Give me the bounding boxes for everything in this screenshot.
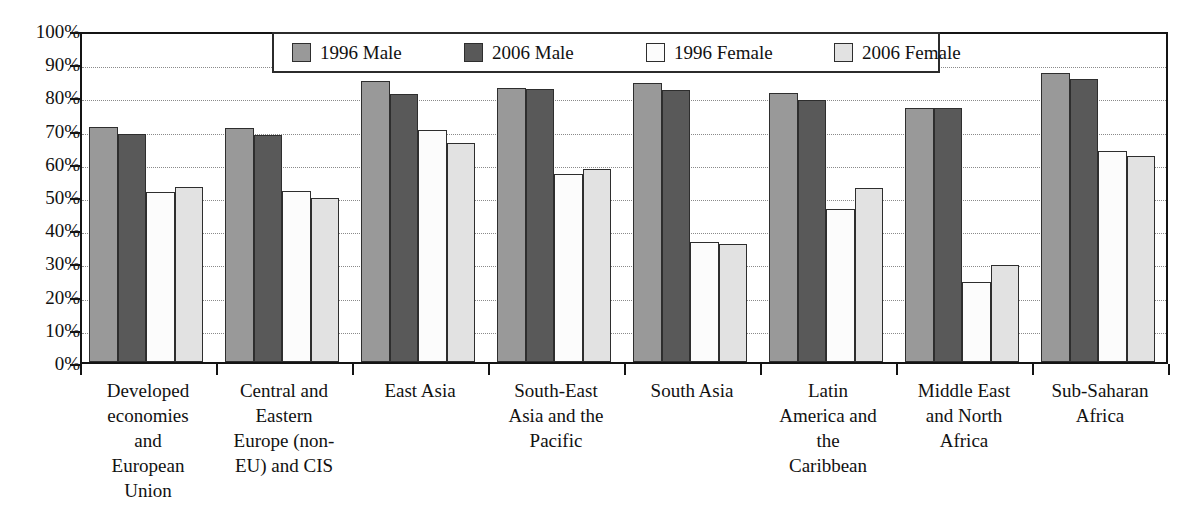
x-axis-category-label-line: Eastern <box>216 403 352 428</box>
y-axis-tick-mark <box>70 132 80 134</box>
y-axis: 100%90%80%70%60%50%40%30%20%10%0% <box>0 0 80 400</box>
bar <box>361 81 390 362</box>
bar <box>89 127 118 362</box>
plot-area <box>80 32 1168 364</box>
bar-group <box>361 34 475 362</box>
legend-item[interactable]: 1996 Female <box>646 34 773 71</box>
bar <box>934 108 963 362</box>
bar <box>311 198 340 362</box>
x-axis-tick-mark <box>1032 364 1034 375</box>
y-axis-tick-mark <box>70 331 80 333</box>
bar-group <box>769 34 883 362</box>
legend-item[interactable]: 2006 Female <box>834 34 961 71</box>
bar <box>254 135 283 362</box>
x-axis-category-label-line: and <box>80 428 216 453</box>
bar-group <box>225 34 339 362</box>
x-axis-category-label-line: Pacific <box>488 428 624 453</box>
x-axis-category-label: LatinAmerica andtheCaribbean <box>760 378 896 478</box>
x-axis-category-label-line: Developed <box>80 378 216 403</box>
x-axis-category-label-line: the <box>760 428 896 453</box>
x-axis-category-label-line: European <box>80 453 216 478</box>
bar <box>719 244 748 362</box>
bar <box>991 265 1020 362</box>
bar <box>662 90 691 362</box>
x-axis-category-label-line: Sub-Saharan <box>1032 378 1168 403</box>
x-axis-category-label-line: Central and <box>216 378 352 403</box>
chart-legend: 1996 Male2006 Male1996 Female2006 Female <box>272 32 940 73</box>
x-axis-category-label: South Asia <box>624 378 760 403</box>
bar <box>1070 79 1099 362</box>
bar <box>175 187 204 362</box>
x-axis-category-label-line: and North <box>896 403 1032 428</box>
y-axis-tick-mark <box>70 264 80 266</box>
bar <box>390 94 419 362</box>
bar <box>826 209 855 362</box>
bar <box>418 130 447 362</box>
x-axis-category-label-line: economies <box>80 403 216 428</box>
legend-item-label: 2006 Female <box>862 43 961 62</box>
legend-item-label: 1996 Male <box>320 43 402 62</box>
bar <box>146 192 175 362</box>
x-axis-tick-mark <box>352 364 354 375</box>
legend-swatch-1996-male <box>292 43 311 62</box>
x-axis-tick-mark <box>1168 364 1170 375</box>
y-axis-tick-mark <box>70 298 80 300</box>
bar <box>526 89 555 362</box>
bar <box>1098 151 1127 362</box>
x-axis-category-label-line: Middle East <box>896 378 1032 403</box>
y-axis-tick-mark <box>70 231 80 233</box>
x-axis-category-label-line: Africa <box>896 428 1032 453</box>
bar <box>1127 156 1156 363</box>
bar <box>497 88 526 362</box>
bar <box>583 169 612 362</box>
y-axis-tick-mark <box>70 198 80 200</box>
bar <box>225 128 254 362</box>
legend-swatch-2006-female <box>834 43 853 62</box>
x-axis-category-label-line: South Asia <box>624 378 760 403</box>
bar <box>769 93 798 362</box>
legend-swatch-2006-male <box>464 43 483 62</box>
legend-item-label: 1996 Female <box>674 43 773 62</box>
bar-group <box>89 34 203 362</box>
x-axis-category-label-line: South-East <box>488 378 624 403</box>
bar <box>118 134 147 362</box>
bar <box>798 100 827 362</box>
bar <box>690 242 719 362</box>
x-axis-category-label-line: America and <box>760 403 896 428</box>
x-axis-tick-mark <box>488 364 490 375</box>
legend-item-label: 2006 Male <box>492 43 574 62</box>
legend-item[interactable]: 1996 Male <box>292 34 402 71</box>
legend-item[interactable]: 2006 Male <box>464 34 574 71</box>
y-axis-tick-mark <box>70 364 80 366</box>
y-axis-tick-mark <box>70 65 80 67</box>
x-axis-category-label-line: Caribbean <box>760 453 896 478</box>
bar <box>633 83 662 362</box>
bar-group <box>1041 34 1155 362</box>
x-axis-tick-mark <box>80 364 82 375</box>
x-axis-category-label: Central andEasternEurope (non-EU) and CI… <box>216 378 352 478</box>
x-axis-tick-mark <box>624 364 626 375</box>
x-axis-category-label-line: Latin <box>760 378 896 403</box>
y-axis-tick-mark <box>70 32 80 34</box>
x-axis-category-label: South-EastAsia and thePacific <box>488 378 624 453</box>
bar-group <box>633 34 747 362</box>
x-axis-category-label-line: Asia and the <box>488 403 624 428</box>
x-axis-tick-mark <box>216 364 218 375</box>
x-axis-category-label: East Asia <box>352 378 488 403</box>
x-axis-category-label-line: EU) and CIS <box>216 453 352 478</box>
bar <box>962 282 991 362</box>
y-axis-tick-mark <box>70 165 80 167</box>
bar <box>447 143 476 362</box>
x-axis-tick-mark <box>760 364 762 375</box>
x-axis-category-label: Sub-SaharanAfrica <box>1032 378 1168 428</box>
bar <box>1041 73 1070 362</box>
y-axis-tick-mark <box>70 98 80 100</box>
bar-group <box>497 34 611 362</box>
x-axis-category-label-line: Europe (non- <box>216 428 352 453</box>
bar <box>554 174 583 362</box>
x-axis-category-label-line: Union <box>80 478 216 503</box>
x-axis-category-label: DevelopedeconomiesandEuropeanUnion <box>80 378 216 503</box>
x-axis-category-label-line: Africa <box>1032 403 1168 428</box>
x-axis-category-label-line: East Asia <box>352 378 488 403</box>
bar-chart: 100%90%80%70%60%50%40%30%20%10%0% Develo… <box>0 0 1197 505</box>
